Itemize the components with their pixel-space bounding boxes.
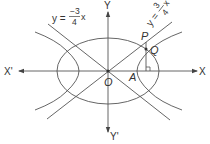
diagram-canvas: X X' Y Y' O A P Q y = −3 4 x y = 3 4 x: [0, 0, 210, 144]
origin-point: [106, 69, 109, 72]
x-prime-axis-label: X': [4, 66, 13, 77]
equation-negative-asymptote: y = −3 4 x: [52, 6, 86, 27]
y-axis-label: Y: [104, 0, 111, 11]
eq-neg-var: x: [81, 12, 86, 22]
point-q-dot: [145, 48, 148, 51]
vertex-a-label: A: [128, 71, 136, 83]
eq-neg-denominator: 4: [72, 17, 77, 27]
y-prime-axis-label: Y': [110, 131, 119, 142]
eq-pos-lhs: y =: [144, 11, 161, 29]
origin-label: O: [104, 76, 113, 88]
eq-neg-numerator: −3: [70, 6, 80, 16]
right-angle-mark: [146, 67, 150, 71]
equation-positive-asymptote: y = 3 4 x: [140, 0, 176, 31]
eq-pos-denominator: 4: [160, 7, 171, 17]
conic-diagram: X X' Y Y' O A P Q y = −3 4 x y = 3 4 x: [0, 0, 210, 144]
point-p-label: P: [141, 30, 149, 42]
point-q-label: Q: [150, 44, 159, 56]
x-axis-label: X: [199, 66, 206, 77]
eq-neg-lhs: y =: [52, 13, 66, 24]
